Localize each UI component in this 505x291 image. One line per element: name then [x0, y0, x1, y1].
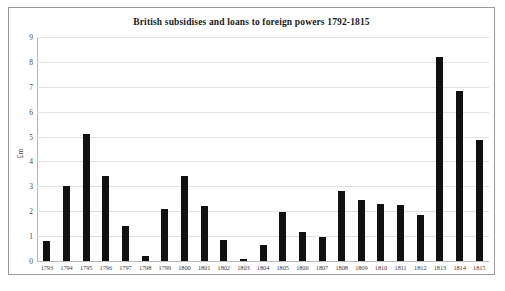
bar-series: [37, 37, 489, 261]
x-tick-label-1804: 1804: [253, 264, 273, 271]
bar-slot: [312, 37, 332, 261]
x-tick-label-1811: 1811: [391, 264, 411, 271]
bar-1807: [319, 237, 326, 261]
x-tick-label-1794: 1794: [57, 264, 77, 271]
x-tick-label-1797: 1797: [116, 264, 136, 271]
y-tick-label-0: 0: [29, 257, 33, 266]
x-tick-label-1801: 1801: [194, 264, 214, 271]
x-tick-label-1798: 1798: [135, 264, 155, 271]
bar-1814: [456, 91, 463, 261]
gridline-0: 0: [37, 261, 489, 262]
y-axis-title: £m: [16, 149, 25, 159]
x-tick-label-1808: 1808: [332, 264, 352, 271]
bar-1813: [436, 57, 443, 261]
bar-slot: [234, 37, 254, 261]
bar-slot: [155, 37, 175, 261]
y-tick-label-1: 1: [29, 232, 33, 241]
y-tick-label-7: 7: [29, 82, 33, 91]
bar-1808: [338, 191, 345, 261]
bar-1799: [161, 209, 168, 261]
bar-1803: [240, 259, 247, 261]
bar-slot: [332, 37, 352, 261]
bar-1794: [63, 186, 70, 261]
x-tick-label-1813: 1813: [430, 264, 450, 271]
bar-slot: [57, 37, 77, 261]
bar-slot: [391, 37, 411, 261]
bar-slot: [214, 37, 234, 261]
x-tick-label-1805: 1805: [273, 264, 293, 271]
x-tick-label-1800: 1800: [175, 264, 195, 271]
bar-slot: [253, 37, 273, 261]
bar-1805: [279, 212, 286, 261]
bar-1801: [201, 206, 208, 261]
bar-slot: [410, 37, 430, 261]
bar-slot: [96, 37, 116, 261]
x-tick-label-1803: 1803: [234, 264, 254, 271]
bar-slot: [352, 37, 372, 261]
x-tick-label-1806: 1806: [293, 264, 313, 271]
chart-figure: British subsidises and loans to foreign …: [0, 0, 505, 291]
y-tick-label-6: 6: [29, 107, 33, 116]
bar-1793: [43, 241, 50, 261]
bar-1806: [299, 232, 306, 261]
x-tick-label-1810: 1810: [371, 264, 391, 271]
bar-1800: [181, 176, 188, 261]
bar-1795: [83, 134, 90, 261]
bar-1804: [260, 245, 267, 261]
x-tick-label-1815: 1815: [469, 264, 489, 271]
x-tick-label-1799: 1799: [155, 264, 175, 271]
bar-slot: [293, 37, 313, 261]
x-axis-tick-labels: 1793179417951796179717981799180018011802…: [37, 264, 489, 271]
x-tick-label-1793: 1793: [37, 264, 57, 271]
bar-slot: [194, 37, 214, 261]
y-tick-label-2: 2: [29, 207, 33, 216]
bar-1810: [377, 204, 384, 261]
chart-frame: British subsidises and loans to foreign …: [8, 7, 495, 275]
bar-slot: [430, 37, 450, 261]
bar-1802: [220, 240, 227, 261]
y-tick-label-8: 8: [29, 57, 33, 66]
bar-1796: [102, 176, 109, 261]
bar-slot: [135, 37, 155, 261]
bar-slot: [450, 37, 470, 261]
x-tick-label-1812: 1812: [410, 264, 430, 271]
x-tick-label-1796: 1796: [96, 264, 116, 271]
bar-1815: [476, 140, 483, 261]
bar-1809: [358, 200, 365, 261]
y-tick-label-5: 5: [29, 132, 33, 141]
chart-title: British subsidises and loans to foreign …: [9, 17, 494, 27]
bar-1812: [417, 215, 424, 261]
figure-caption: [8, 280, 495, 289]
bar-slot: [116, 37, 136, 261]
bar-slot: [76, 37, 96, 261]
bar-1797: [122, 226, 129, 261]
plot-area: 9876543210: [37, 37, 489, 261]
x-tick-label-1809: 1809: [352, 264, 372, 271]
x-tick-label-1795: 1795: [76, 264, 96, 271]
bar-slot: [175, 37, 195, 261]
bar-slot: [273, 37, 293, 261]
x-tick-label-1807: 1807: [312, 264, 332, 271]
y-tick-label-3: 3: [29, 182, 33, 191]
bar-1798: [142, 256, 149, 261]
y-tick-label-9: 9: [29, 33, 33, 42]
bar-1811: [397, 205, 404, 261]
x-tick-label-1802: 1802: [214, 264, 234, 271]
bar-slot: [37, 37, 57, 261]
bar-slot: [371, 37, 391, 261]
x-tick-label-1814: 1814: [450, 264, 470, 271]
bar-slot: [469, 37, 489, 261]
y-tick-label-4: 4: [29, 157, 33, 166]
